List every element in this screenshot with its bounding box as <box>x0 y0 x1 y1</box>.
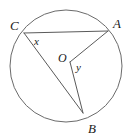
chord-CB <box>24 33 83 113</box>
point-label-C: C <box>10 18 19 33</box>
angle-label-y: y <box>75 61 81 73</box>
chord-CA <box>24 31 108 33</box>
point-label-B: B <box>88 121 96 136</box>
geometry-canvas: C A B O x y <box>0 0 132 139</box>
point-label-A: A <box>112 16 121 31</box>
angle-label-x: x <box>33 35 39 47</box>
point-label-O: O <box>58 51 67 65</box>
radius-OA <box>70 31 108 62</box>
circle-outline <box>10 10 122 122</box>
geometry-diagram: C A B O x y <box>0 0 132 139</box>
